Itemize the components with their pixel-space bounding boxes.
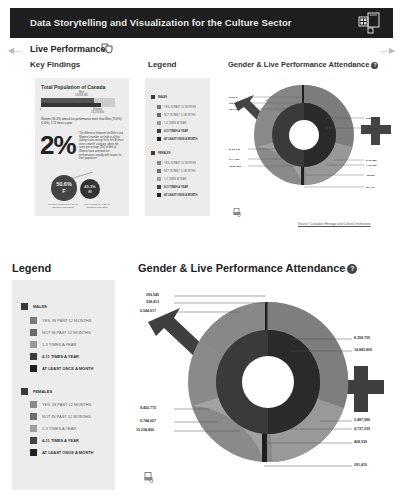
legend-item[interactable]: 4-11 TIMES A YEAR (157, 128, 188, 134)
legend-item[interactable]: 4-11 TIMES A YEAR (30, 434, 79, 446)
print-icon[interactable] (144, 472, 154, 483)
key-findings-card: Total Population of Canada Men 16,893,89… (35, 78, 129, 216)
bar-segment-women (41, 103, 101, 108)
legend-label: 1-3 TIMES A YEAR (42, 342, 76, 347)
legend-item[interactable]: AT LEAST ONCE A MONTH (30, 446, 93, 458)
legend-item[interactable]: YES, IN PAST 12 MONTHS (157, 160, 196, 166)
legend-swatch (157, 129, 161, 133)
legend-swatch (157, 193, 161, 197)
chart-value-label: 6,544,617 (229, 108, 240, 111)
legend-label: FEMALES (33, 389, 52, 394)
legend-item[interactable]: 4-11 TIMES A YEAR (157, 184, 188, 190)
key-findings-title: Key Findings (30, 60, 80, 69)
chart-value-label: 408,939 (354, 440, 367, 444)
legend-label: AT LEAST ONCE A MONTH (42, 450, 93, 455)
stat-text: Women (39.4%) attend live performance mo… (41, 118, 125, 125)
legend-label: YES, IN PAST 12 MONTHS (42, 318, 91, 323)
help-icon[interactable]: ? (347, 264, 357, 274)
legend-item[interactable]: 4-11 TIMES A YEAR (30, 350, 79, 362)
legend-swatch (30, 401, 37, 408)
legend-item[interactable]: AT LEAST ONCE A MONTH (157, 192, 197, 198)
chart-value-label: 299,545 (146, 293, 159, 297)
help-icon[interactable]: ? (371, 62, 378, 69)
chart-value-label: 8,358,799 (366, 117, 377, 120)
section-title: Live Performance (30, 44, 106, 54)
legend-label: NOT IN PAST 12 MONTHS (42, 414, 91, 419)
section-nav: ◀— Live Performance —▶ (0, 44, 403, 58)
legend-swatch (157, 105, 161, 109)
legend-swatch (157, 177, 161, 181)
legend-panel-small: MALES YES, IN PAST 12 MONTHS NOT IN PAST… (145, 78, 210, 216)
legend-group-males[interactable]: MALES (151, 94, 167, 100)
legend-group-females[interactable]: FEMALES (151, 150, 170, 156)
chart-title-text: Gender & Live Performance Attendance (138, 262, 345, 274)
legend-item[interactable]: NOT IN PAST 12 MONTHS (30, 326, 91, 338)
chart-title-text: Gender & Live Performance Attendance (228, 60, 369, 69)
legend-item[interactable]: AT LEAST ONCE A MONTH (157, 136, 197, 142)
legend-label: NOT IN PAST 12 MONTHS (164, 170, 196, 173)
legend-label: MALES (158, 96, 167, 99)
chart-title-small: Gender & Live Performance Attendance? (228, 60, 378, 69)
legend-item[interactable]: YES, IN PAST 12 MONTHS (157, 104, 196, 110)
arrow-right-icon[interactable]: —▶ (381, 46, 395, 55)
legend-swatch (21, 388, 28, 395)
chart-value-label: 15,234,860 (229, 165, 241, 168)
chart-value-label: 6,744,057 (140, 419, 156, 423)
dashboard-logo-icon[interactable] (357, 11, 381, 35)
legend-item[interactable]: 1-3 TIMES A YEAR (157, 120, 186, 126)
legend-item[interactable]: YES, IN PAST 12 MONTHS (30, 314, 91, 326)
legend-item[interactable]: NOT IN PAST 12 MONTHS (157, 112, 196, 118)
legend-item[interactable]: 1-3 TIMES A YEAR (30, 338, 76, 350)
legend-swatch (157, 113, 161, 117)
chart-value-label: 6,544,617 (140, 309, 156, 313)
legend-item[interactable]: NOT IN PAST 12 MONTHS (157, 168, 196, 174)
legend-swatch (30, 353, 37, 360)
legend-swatch (151, 151, 155, 155)
chart-value-label: 291,410 (354, 463, 367, 467)
female-share-circle: 50.6% F (51, 175, 77, 201)
legend-item[interactable]: YES, IN PAST 12 MONTHS (30, 398, 91, 410)
legend-label: NOT IN PAST 12 MONTHS (164, 114, 196, 117)
population-title: Total Population of Canada (41, 84, 105, 90)
legend-title-large: Legend (12, 262, 51, 274)
legend-swatch (21, 303, 28, 310)
legend-label: 1-3 TIMES A YEAR (42, 426, 76, 431)
legend-label: AT LEAST ONCE A MONTH (164, 194, 197, 197)
chart-value-label: 5,487,586 (354, 418, 370, 422)
chart-value-label: 15,234,860 (136, 428, 154, 432)
legend-title-small: Legend (148, 60, 176, 69)
legend-label: 4-11 TIMES A YEAR (164, 130, 188, 133)
chart-value-label: 14,843,809 (366, 127, 378, 130)
chart-value-label: 8,450,775 (140, 406, 156, 410)
legend-swatch (30, 341, 37, 348)
legend-label: AT LEAST ONCE A MONTH (42, 366, 93, 371)
legend-item[interactable]: 1-3 TIMES A YEAR (157, 176, 186, 182)
legend-label: YES, IN PAST 12 MONTHS (164, 162, 196, 165)
chart-value-label: 291,410 (366, 186, 375, 189)
chart-value-label: 4,737,239 (354, 427, 370, 431)
print-icon[interactable] (233, 208, 241, 217)
bar-label-women: Women 18,233,900 (91, 108, 104, 114)
chart-value-label: 8,450,775 (229, 148, 240, 151)
chart-value-label: 6,744,057 (229, 158, 240, 161)
big-stat: 2% (40, 130, 76, 161)
legend-swatch (157, 185, 161, 189)
arrow-left-icon[interactable]: ◀— (8, 46, 22, 55)
chart-value-label: 8,358,799 (354, 336, 370, 340)
legend-swatch (157, 161, 161, 165)
legend-swatch (30, 365, 37, 372)
big-stat-description: The difference between the Men's and Wom… (79, 132, 125, 161)
legend-swatch (30, 329, 37, 336)
legend-label: YES, IN PAST 12 MONTHS (42, 402, 91, 407)
legend-group-females[interactable]: FEMALES (21, 385, 52, 397)
legend-swatch (30, 413, 37, 420)
legend-group-males[interactable]: MALES (21, 300, 47, 312)
legend-item[interactable]: 1-3 TIMES A YEAR (30, 422, 76, 434)
legend-item[interactable]: AT LEAST ONCE A MONTH (30, 362, 93, 374)
source-link[interactable]: Source: Canadian Heritage and Cultural I… (298, 222, 371, 226)
legend-label: 4-11 TIMES A YEAR (164, 186, 188, 189)
legend-label: NOT IN PAST 12 MONTHS (42, 330, 91, 335)
legend-item[interactable]: NOT IN PAST 12 MONTHS (30, 410, 91, 422)
legend-swatch (30, 425, 37, 432)
chart-value-label: 938,413 (146, 300, 159, 304)
